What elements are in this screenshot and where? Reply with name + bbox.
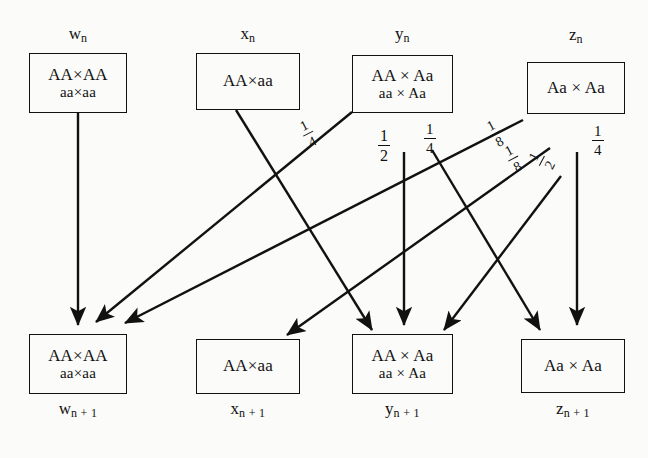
box-z-n: Aa × Aa (527, 62, 625, 114)
weight-z-to-x: 1 8 (501, 142, 526, 176)
box-x-n: AA×aa (196, 53, 300, 110)
box-x-n-line-1: AA×aa (223, 72, 273, 90)
box-w-n1-line-2: aa×aa (60, 365, 96, 381)
box-y-n: AA × Aa aa × Aa (352, 55, 453, 113)
box-w-n-line-2: aa×aa (60, 84, 96, 100)
box-y-n1: AA × Aa aa × Aa (352, 334, 453, 394)
label-z-n: zn (527, 25, 625, 47)
weight-y-to-z: 1 4 (424, 122, 436, 156)
label-y-n1: yn + 1 (352, 399, 453, 421)
weight-y-to-y: 1 2 (378, 128, 390, 164)
box-w-n-line-1: AA×AA (48, 66, 108, 84)
box-y-n1-line-2: aa × Aa (379, 365, 426, 381)
weight-z-to-z: 1 4 (592, 124, 604, 158)
box-y-n1-line-1: AA × Aa (372, 347, 434, 365)
box-x-n1: AA×aa (196, 339, 300, 394)
label-w-n: wn (29, 24, 127, 46)
box-z-n1-line-1: Aa × Aa (544, 357, 602, 375)
box-z-n-line-1: Aa × Aa (547, 79, 605, 97)
weight-y-to-w: 1 4 (296, 117, 321, 151)
label-y-n: yn (352, 24, 453, 46)
label-x-n: xn (196, 24, 300, 46)
genetics-transition-diagram: wn AA×AA aa×aa xn AA×aa yn AA × Aa aa × … (0, 0, 648, 458)
box-x-n1-line-1: AA×aa (223, 357, 273, 375)
weight-z-to-y: 1 2 (526, 149, 560, 174)
box-y-n-line-1: AA × Aa (372, 67, 434, 85)
label-x-n1: xn + 1 (196, 399, 300, 421)
box-w-n1: AA×AA aa×aa (29, 334, 127, 394)
label-w-n1: wn + 1 (29, 399, 127, 421)
box-y-n-line-2: aa × Aa (379, 85, 426, 101)
edge-x-to-y (236, 110, 372, 330)
edge-z-to-w (125, 120, 523, 323)
edge-z-to-x (287, 148, 550, 335)
box-w-n1-line-1: AA×AA (48, 347, 108, 365)
edge-z-to-y (444, 176, 561, 330)
box-w-n: AA×AA aa×aa (29, 53, 127, 113)
box-z-n1: Aa × Aa (521, 339, 625, 393)
edge-y-to-z (432, 150, 540, 330)
label-z-n1: zn + 1 (521, 399, 625, 421)
